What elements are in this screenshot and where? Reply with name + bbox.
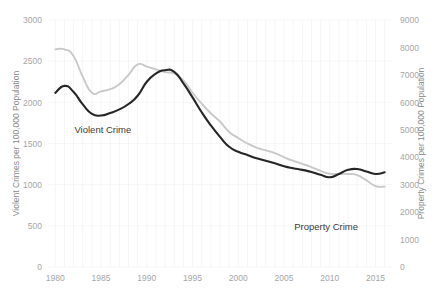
y-left-tick-3000: 3000: [23, 15, 42, 25]
x-tick-1990: 1990: [137, 273, 156, 283]
y-left-tick-2000: 2000: [23, 98, 42, 108]
y-right-tick-1000: 1000: [400, 235, 419, 245]
x-tick-1995: 1995: [183, 273, 202, 283]
y-right-tick-0: 0: [400, 262, 405, 272]
x-tick-1980: 1980: [46, 273, 65, 283]
property-crime-label: Property Crime: [294, 221, 358, 232]
y-axis-right-title: Property Crimes per 100,000 Population: [416, 67, 426, 219]
y-right-tick-9000: 9000: [400, 15, 419, 25]
y-right-tick-8000: 8000: [400, 43, 419, 53]
y-left-tick-1500: 1500: [23, 139, 42, 149]
x-tick-2010: 2010: [320, 273, 339, 283]
crime-rates-chart: 19801985199019952000200520102015 0500100…: [0, 0, 435, 298]
y-left-tick-0: 0: [37, 262, 42, 272]
x-tick-2005: 2005: [275, 273, 294, 283]
x-tick-2000: 2000: [229, 273, 248, 283]
x-tick-1985: 1985: [92, 273, 111, 283]
y-left-tick-500: 500: [28, 221, 42, 231]
y-left-tick-1000: 1000: [23, 180, 42, 190]
y-axis-left-title: Violent Crimes per 100,000 Population: [11, 71, 21, 217]
chart-canvas: 19801985199019952000200520102015 0500100…: [0, 0, 435, 298]
y-left-tick-2500: 2500: [23, 56, 42, 66]
violent-crime-label: Violent Crime: [74, 124, 131, 135]
x-tick-2015: 2015: [366, 273, 385, 283]
chart-background: [0, 0, 435, 298]
